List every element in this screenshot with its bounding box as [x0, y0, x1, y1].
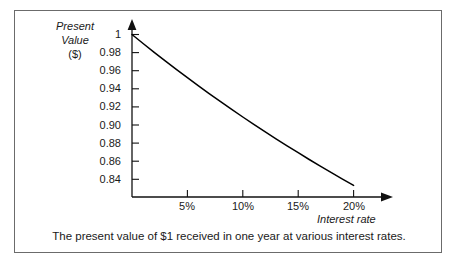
x-tick-label-5: 5% — [170, 200, 204, 212]
y-tick-label-0.84: 0.84 — [81, 173, 121, 185]
y-tick-label-0.94: 0.94 — [81, 82, 121, 94]
present-value-curve — [132, 35, 354, 186]
y-axis-arrowhead — [128, 19, 137, 30]
x-tick-label-15: 15% — [281, 200, 315, 212]
y-tick-label-0.92: 0.92 — [81, 100, 121, 112]
y-axis-ticks — [132, 35, 139, 180]
axis-lines — [128, 19, 393, 202]
y-tick-label-0.98: 0.98 — [81, 46, 121, 58]
x-tick-label-20: 20% — [337, 200, 371, 212]
x-axis-ticks — [187, 190, 353, 197]
y-tick-label-0.88: 0.88 — [81, 137, 121, 149]
x-tick-label-10: 10% — [226, 200, 260, 212]
y-tick-label-1: 1 — [81, 28, 121, 40]
y-tick-label-0.86: 0.86 — [81, 155, 121, 167]
plot-area: Present Value ($) Interest rate — [15, 11, 443, 226]
y-tick-label-0.96: 0.96 — [81, 64, 121, 76]
figure-root: Present Value ($) Interest rate — [0, 0, 456, 269]
chart-canvas — [15, 11, 443, 226]
figure-caption: The present value of $1 received in one … — [15, 230, 443, 242]
x-axis-arrowhead — [381, 192, 393, 201]
figure-frame: Present Value ($) Interest rate — [14, 10, 442, 253]
y-tick-label-0.90: 0.90 — [81, 119, 121, 131]
